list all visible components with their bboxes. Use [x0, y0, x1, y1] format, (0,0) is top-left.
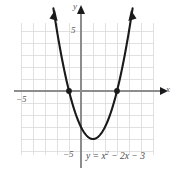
y-axis-arrowhead — [77, 5, 85, 14]
y-axis-tick-label-5: 5 — [71, 26, 76, 35]
axis-lines — [14, 13, 160, 168]
graph-figure: y x 5 −5 −5 y = x2 − 2x − 3 — [0, 0, 176, 174]
equation-head: y = x — [86, 151, 106, 161]
x-axis-tick-label-negative-5: −5 — [16, 95, 27, 104]
coordinate-plane-svg — [0, 0, 176, 174]
equation-label: y = x2 − 2x − 3 — [86, 150, 145, 162]
root-point-right — [114, 88, 120, 94]
x-axis-label: x — [166, 85, 170, 94]
equation-tail: − 2x − 3 — [109, 151, 145, 161]
y-axis-tick-label-negative-5: −5 — [63, 150, 74, 159]
y-axis-label: y — [73, 2, 77, 11]
root-point-left — [66, 88, 72, 94]
